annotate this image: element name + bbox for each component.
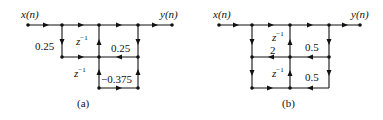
b-upper-delay: z−1 xyxy=(272,31,284,43)
a-lower-delay: z−1 xyxy=(74,67,86,79)
b-input-label: x(n) xyxy=(213,9,231,20)
b-upper-right-gain: 0.5 xyxy=(305,42,319,53)
b-output-label: y(n) xyxy=(351,9,369,20)
a-output-label: y(n) xyxy=(160,9,178,20)
b-lower-delay: z−1 xyxy=(272,67,284,79)
signal-flow-graphs xyxy=(0,0,383,120)
a-right-feedback: 0.25 xyxy=(111,43,130,54)
b-caption: (b) xyxy=(282,98,295,109)
a-caption: (a) xyxy=(77,98,89,109)
a-left-gain: 0.25 xyxy=(35,41,54,52)
a-upper-delay: z−1 xyxy=(76,35,88,47)
b-lower-right-gain: 0.5 xyxy=(305,72,319,83)
a-input-label: x(n) xyxy=(21,9,39,20)
b-left-gain: 2 xyxy=(270,45,276,56)
diagram-a-nodes xyxy=(26,23,174,90)
a-lower-feedback: −0.375 xyxy=(101,74,132,85)
